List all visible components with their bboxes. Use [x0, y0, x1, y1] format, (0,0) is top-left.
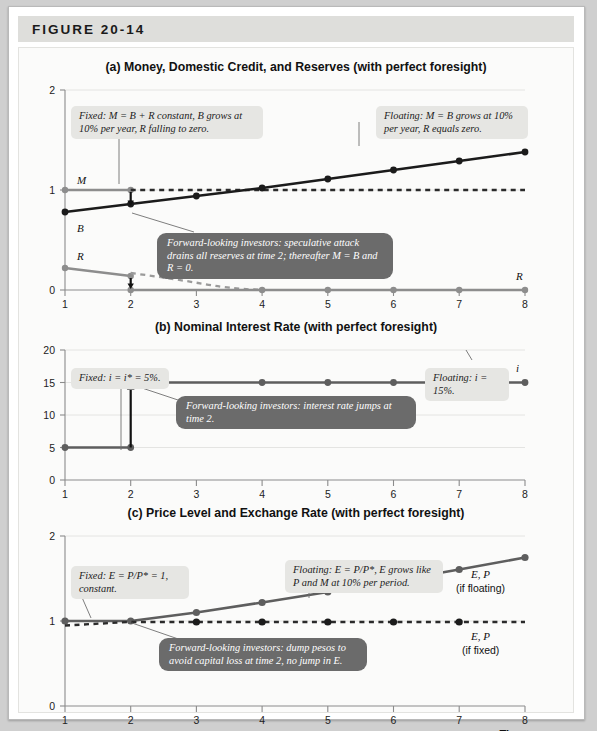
panel-b-xtick-2: 2 — [128, 488, 134, 500]
panel-a-xtick-8: 8 — [522, 298, 528, 310]
series-r-fixed — [65, 268, 131, 276]
panel-a-xtick-7: 7 — [456, 298, 462, 310]
panel-b-ytick-20: 20 — [43, 344, 55, 356]
panel-a-title: (a) Money, Domestic Credit, and Reserves… — [19, 60, 573, 74]
panel-b-xtick-3: 3 — [193, 488, 199, 500]
panel-c-ytick-1: 1 — [49, 615, 55, 627]
callout-attack-a: Forward-looking investors: speculative a… — [157, 233, 393, 279]
panel-c-xtick-4: 4 — [259, 714, 265, 726]
panel-c-xtick-2: 2 — [128, 714, 134, 726]
label-r: R — [76, 250, 84, 262]
panel-a-xtick-1: 1 — [62, 298, 68, 310]
panel-a-xtick-4: 4 — [259, 298, 265, 310]
label-ep-floating-2: (if floating) — [456, 582, 505, 594]
figure-number-label: FIGURE 20-14 — [32, 22, 145, 37]
panel-b-xtick-1: 1 — [62, 488, 68, 500]
panel-c-xtick-3: 3 — [193, 714, 199, 726]
callout-floating-b: Floating: i = 15%. — [425, 368, 509, 401]
panel-c-xtick-1: 1 — [62, 714, 68, 726]
leader-attack-a — [132, 213, 194, 232]
panel-a-xtick-2: 2 — [128, 298, 134, 310]
panel-b-xtick-6: 6 — [391, 488, 397, 500]
callout-jump-b: Forward-looking investors: interest rate… — [176, 396, 416, 429]
panel-c-xtick-8: 8 — [522, 714, 528, 726]
callout-fixed-b: Fixed: i = i* = 5%. — [71, 368, 169, 389]
panel-c-ytick-0: 0 — [49, 700, 55, 712]
panel-b-xtick-4: 4 — [259, 488, 265, 500]
panel-c-xtick-6: 6 — [391, 714, 397, 726]
label-ep-floating-1: E, P — [470, 568, 490, 580]
callout-floating-a: Floating: M = B grows at 10% per year, R… — [376, 106, 528, 139]
panel-c-chart: 2 1 0 1 2 3 4 5 6 7 8 Time — [19, 526, 573, 721]
panel-b-xtick-5: 5 — [325, 488, 331, 500]
panel-b-xtick-8: 8 — [522, 488, 528, 500]
figure-header-band: FIGURE 20-14 — [18, 16, 574, 42]
label-ep-fixed-1: E, P — [470, 630, 490, 642]
panel-b-xtick-7: 7 — [456, 488, 462, 500]
panel-a-ytick-0: 0 — [49, 284, 55, 296]
label-i: i — [516, 362, 519, 374]
panel-c-xtick-5: 5 — [325, 714, 331, 726]
label-m: M — [76, 174, 87, 186]
callout-floating-c: Floating: E = P/P*, E grows like P and M… — [285, 560, 443, 593]
panel-b-ytick-0: 0 — [49, 474, 55, 486]
panel-a-ytick-1: 1 — [49, 184, 55, 196]
panel-a-xtick-5: 5 — [325, 298, 331, 310]
callout-fixed-c: Fixed: E = P/P* = 1, constant. — [71, 566, 189, 599]
label-ep-fixed-2: (if fixed) — [462, 644, 499, 656]
leader-floating-b-top — [466, 350, 472, 360]
label-b: B — [77, 222, 84, 234]
panel-b-ytick-15: 15 — [43, 377, 55, 389]
panel-a-ytick-2: 2 — [49, 84, 55, 96]
panel-b-ytick-5: 5 — [49, 442, 55, 454]
callout-dump-c: Forward-looking investors: dump pesos to… — [159, 638, 367, 671]
panel-c-xtick-7: 7 — [456, 714, 462, 726]
figure-body: (a) Money, Domestic Credit, and Reserves… — [18, 47, 574, 713]
panel-c-title: (c) Price Level and Exchange Rate (with … — [19, 506, 573, 520]
panel-b-title: (b) Nominal Interest Rate (with perfect … — [19, 320, 573, 334]
panel-c-ytick-2: 2 — [49, 530, 55, 542]
panel-a-xtick-6: 6 — [391, 298, 397, 310]
figure-frame: FIGURE 20-14 (a) Money, Domestic Credit,… — [8, 6, 585, 720]
label-r-right: R — [515, 270, 523, 282]
panel-a-xtick-3: 3 — [193, 298, 199, 310]
callout-fixed-a: Fixed: M = B + R constant, B grows at 10… — [71, 106, 263, 139]
panel-b-ytick-10: 10 — [43, 409, 55, 421]
